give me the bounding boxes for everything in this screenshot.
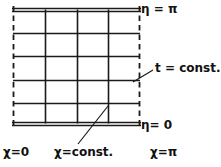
coordinate-grid-svg <box>0 0 221 167</box>
t-const-lines <box>13 34 140 104</box>
figure-canvas: η = π t = const. η= 0 χ=0 χ=const. χ=π <box>0 0 221 167</box>
boundary-eta-pi <box>12 9 141 12</box>
label-t-const: t = const. <box>155 62 220 74</box>
boundary-eta-0 <box>12 123 141 126</box>
chi-const-lines <box>46 10 109 124</box>
label-eta-pi: η = π <box>141 3 177 15</box>
label-chi-const: χ=const. <box>54 146 113 158</box>
label-chi-0: χ=0 <box>3 146 29 158</box>
label-eta-0: η= 0 <box>141 119 172 131</box>
t-const-leader-line <box>133 70 153 82</box>
label-chi-pi: χ=π <box>150 146 177 158</box>
